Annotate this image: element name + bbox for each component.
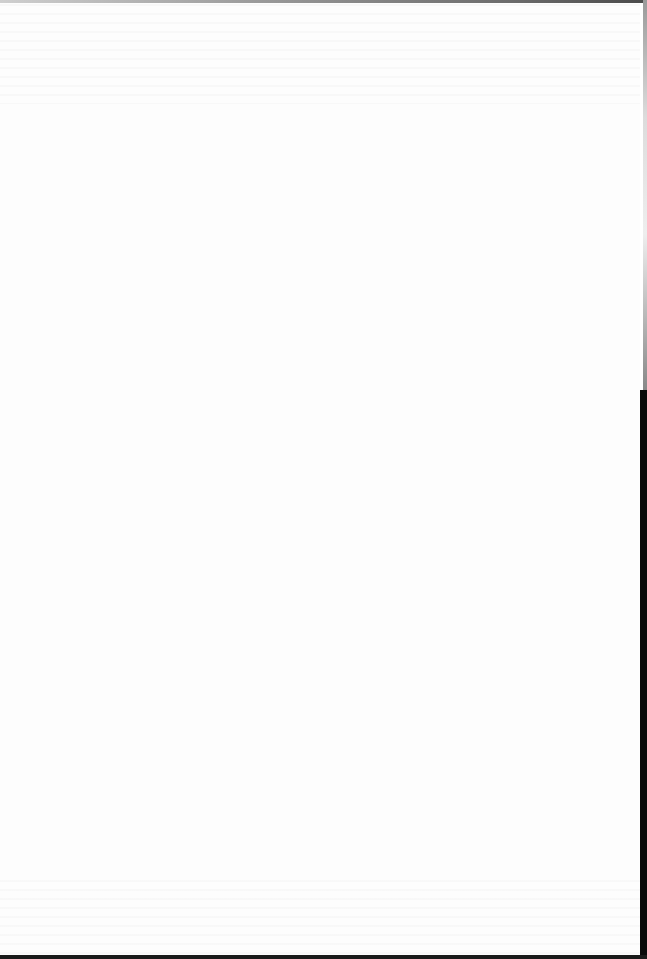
- scan-right-edge: [640, 390, 647, 959]
- scan-bottom-edge: [0, 955, 647, 959]
- scan-right-edge-upper: [643, 0, 647, 390]
- blank-scanned-page: [0, 0, 640, 955]
- bleed-through-texture-top: [0, 4, 640, 104]
- bleed-through-texture-bottom: [0, 880, 640, 955]
- scan-top-edge: [0, 0, 647, 3]
